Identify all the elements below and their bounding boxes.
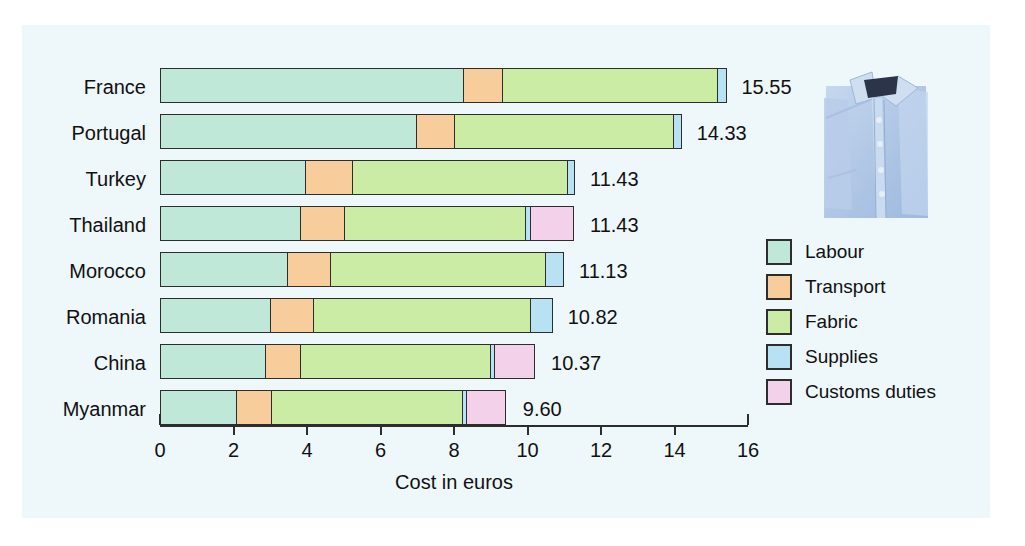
bar-segment-fabric[interactable]	[313, 298, 532, 333]
bar-segment-supplies[interactable]	[673, 114, 681, 149]
bar-segment-labour[interactable]	[160, 206, 301, 241]
bar-segment-labour[interactable]	[160, 252, 289, 287]
legend-label: Transport	[805, 277, 886, 296]
legend-item[interactable]: Customs duties	[766, 376, 936, 407]
x-axis-tick-label: 16	[737, 440, 759, 460]
bar-segment-supplies[interactable]	[530, 298, 553, 333]
bar-segment-transport[interactable]	[265, 344, 302, 379]
bar-segment-customs-duties[interactable]	[530, 206, 573, 241]
legend-swatch-fabric	[766, 309, 792, 335]
legend-swatch-customs-duties	[766, 379, 792, 405]
legend-label: Customs duties	[805, 382, 936, 401]
y-axis-label: Myanmar	[0, 399, 160, 419]
bar-segment-labour[interactable]	[160, 390, 237, 425]
bar-row[interactable]	[160, 390, 506, 425]
bar-segment-labour[interactable]	[160, 160, 307, 195]
bar-total-label: 14.33	[697, 123, 747, 143]
bar-segment-supplies[interactable]	[717, 68, 726, 103]
bar-segment-transport[interactable]	[305, 160, 353, 195]
bar-total-label: 10.37	[551, 353, 601, 373]
y-axis-label: France	[0, 77, 160, 97]
legend-label: Supplies	[805, 347, 878, 366]
folded-dress-shirt-photo	[806, 58, 946, 226]
bar-segment-labour[interactable]	[160, 114, 417, 149]
bar-row[interactable]	[160, 298, 553, 333]
chart-legend: LabourTransportFabricSuppliesCustoms dut…	[766, 236, 936, 411]
legend-item[interactable]: Supplies	[766, 341, 936, 372]
legend-item[interactable]: Labour	[766, 236, 936, 267]
legend-label: Fabric	[805, 312, 858, 331]
bar-row[interactable]	[160, 206, 574, 241]
legend-swatch-supplies	[766, 344, 792, 370]
bar-segment-fabric[interactable]	[300, 344, 491, 379]
legend-item[interactable]: Transport	[766, 271, 936, 302]
bar-segment-fabric[interactable]	[344, 206, 526, 241]
bar-segment-labour[interactable]	[160, 298, 272, 333]
y-axis-label: Thailand	[0, 215, 160, 235]
bar-segment-transport[interactable]	[416, 114, 456, 149]
bar-row[interactable]	[160, 344, 535, 379]
bar-total-label: 11.13	[579, 261, 628, 281]
chart-figure: France15.55Portugal14.33Turkey11.43Thail…	[0, 0, 1025, 546]
x-axis-right-cap	[747, 414, 749, 425]
bar-segment-labour[interactable]	[160, 68, 465, 103]
bar-segment-supplies[interactable]	[567, 160, 575, 195]
y-axis-label: Portugal	[0, 123, 160, 143]
y-axis-label: Morocco	[0, 261, 160, 281]
bar-segment-transport[interactable]	[300, 206, 346, 241]
bar-total-label: 11.43	[590, 215, 639, 235]
legend-swatch-labour	[766, 239, 792, 265]
bar-segment-customs-duties[interactable]	[494, 344, 535, 379]
bar-row[interactable]	[160, 160, 575, 195]
bar-row[interactable]	[160, 68, 727, 103]
x-axis-tick-label: 0	[154, 440, 165, 460]
y-axis-label: Romania	[0, 307, 160, 327]
x-axis-title: Cost in euros	[160, 472, 748, 492]
x-axis-tick-label: 10	[516, 440, 538, 460]
y-axis-label: China	[0, 353, 160, 373]
bar-total-label: 9.60	[523, 399, 562, 419]
bar-row[interactable]	[160, 114, 682, 149]
x-axis-tick-label: 14	[663, 440, 685, 460]
bar-segment-transport[interactable]	[270, 298, 314, 333]
x-axis-tick-label: 8	[448, 440, 459, 460]
bar-total-label: 10.82	[568, 307, 618, 327]
bar-segment-labour[interactable]	[160, 344, 267, 379]
x-axis-left-cap	[159, 414, 161, 425]
bar-segment-transport[interactable]	[463, 68, 503, 103]
x-axis-tick-label: 2	[228, 440, 239, 460]
x-axis-line	[160, 425, 748, 427]
bar-segment-customs-duties[interactable]	[466, 390, 506, 425]
bar-segment-fabric[interactable]	[352, 160, 569, 195]
legend-swatch-transport	[766, 274, 792, 300]
legend-item[interactable]: Fabric	[766, 306, 936, 337]
bar-segment-fabric[interactable]	[330, 252, 547, 287]
bar-segment-transport[interactable]	[236, 390, 273, 425]
bar-segment-fabric[interactable]	[502, 68, 719, 103]
legend-label: Labour	[805, 242, 864, 261]
x-axis-tick-label: 12	[590, 440, 612, 460]
x-axis-tick-label: 6	[375, 440, 386, 460]
bar-segment-transport[interactable]	[287, 252, 331, 287]
bar-total-label: 15.55	[741, 77, 791, 97]
bar-total-label: 11.43	[590, 169, 639, 189]
bar-row[interactable]	[160, 252, 564, 287]
bar-segment-supplies[interactable]	[545, 252, 564, 287]
bar-segment-fabric[interactable]	[454, 114, 675, 149]
y-axis-label: Turkey	[0, 169, 160, 189]
bar-segment-fabric[interactable]	[271, 390, 464, 425]
x-axis-tick-label: 4	[301, 440, 312, 460]
